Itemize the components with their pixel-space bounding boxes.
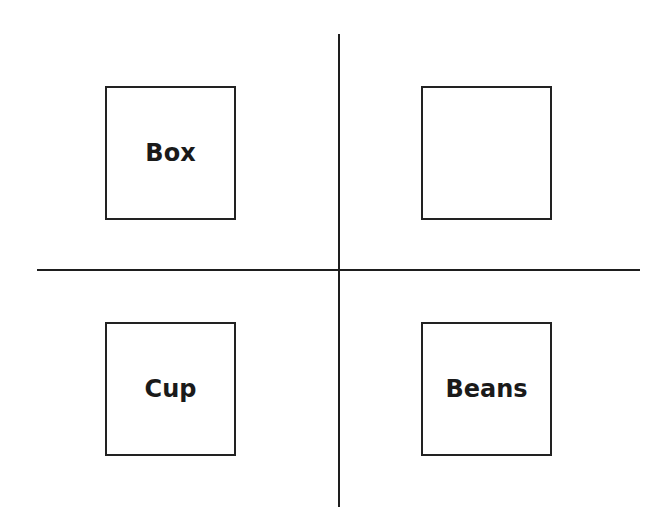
quadrant-box-top-left: Box — [105, 86, 236, 220]
quadrant-label-bottom-left: Cup — [145, 375, 197, 403]
quadrant-box-bottom-left: Cup — [105, 322, 236, 456]
quadrant-box-top-right-empty — [421, 86, 552, 220]
quadrant-label-top-left: Box — [145, 139, 195, 167]
quadrant-label-bottom-right: Beans — [445, 375, 527, 403]
horizontal-divider-line — [37, 269, 640, 271]
quadrant-box-bottom-right: Beans — [421, 322, 552, 456]
